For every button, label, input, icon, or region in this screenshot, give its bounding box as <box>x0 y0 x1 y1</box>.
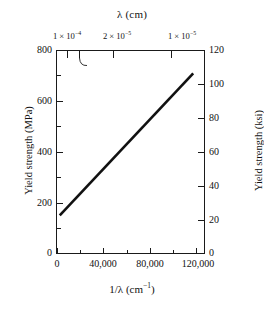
yield-strength-line <box>60 73 193 215</box>
yield-strength-chart: λ (cm) 1 × 10−4 2 × 10−5 1 × 10−5 5 × 10… <box>0 0 264 313</box>
data-layer <box>0 0 264 313</box>
annotation-leader-line <box>80 58 88 66</box>
